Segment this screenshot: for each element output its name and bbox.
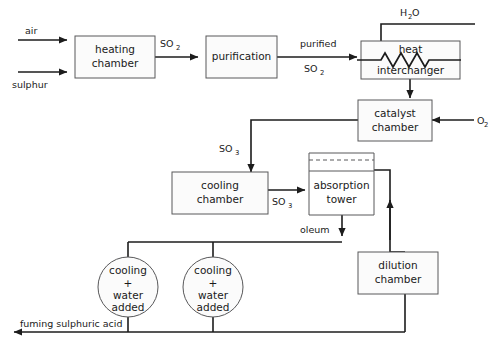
heat-interchanger-label-line1: heat (399, 43, 423, 55)
heating-chamber-label-line1: heating (95, 43, 135, 55)
label-so3-a-subscript: 3 (235, 149, 239, 157)
label-so3-b-main: SO (272, 196, 286, 207)
cooling-water-1-label-line3: water (113, 289, 144, 301)
label-so2-after-heating: SO 2 (160, 38, 180, 52)
label-oxygen: O 2 (477, 115, 488, 129)
purification-label: purification (212, 50, 272, 62)
process-flow-diagram: heating chamber purification heat interc… (0, 0, 493, 349)
label-so2-a-subscript: 2 (176, 44, 180, 52)
connector-dilution-to-tower (374, 170, 390, 252)
absorption-tower-label-line2: tower (327, 193, 358, 205)
label-water-main: H (400, 7, 407, 18)
label-so2-a-main: SO (160, 38, 174, 49)
label-so3-b-subscript: 3 (288, 202, 292, 210)
dilution-chamber-label-line2: chamber (375, 273, 422, 285)
label-so2-b-main: SO (304, 63, 318, 74)
heating-chamber-label-line2: chamber (92, 57, 139, 69)
label-so3-to-tower: SO 3 (272, 196, 292, 210)
label-so3-from-catalyst: SO 3 (219, 143, 239, 157)
label-oleum: oleum (300, 224, 330, 235)
diagram-canvas: heating chamber purification heat interc… (0, 0, 493, 349)
cooling-water-2-label-line1: cooling (194, 264, 232, 276)
catalyst-chamber-label-line1: catalyst (374, 107, 415, 119)
label-oxygen-subscript: 2 (484, 121, 488, 129)
connector-so3-to-cooling-chamber (251, 120, 358, 172)
cooling-water-1-label-line1: cooling (109, 264, 147, 276)
cooling-water-2-label-line4: added (197, 301, 230, 313)
connector-water-inlet (381, 24, 475, 41)
label-purified: purified (300, 38, 336, 49)
absorption-tower-label-line1: absorption (313, 179, 369, 191)
cooling-chamber-label-line1: cooling (201, 179, 239, 191)
label-fuming-sulphuric-acid: fuming sulphuric acid (20, 318, 123, 329)
label-sulphur: sulphur (12, 79, 48, 90)
label-air: air (25, 25, 37, 36)
dilution-chamber-label-line1: dilution (378, 259, 417, 271)
cooling-water-1-label-line4: added (112, 301, 145, 313)
cooling-water-1-label-line2: + (124, 277, 133, 289)
cooling-water-2-label-line3: water (198, 289, 229, 301)
label-so2-purified: SO 2 (304, 63, 324, 77)
label-so3-a-main: SO (219, 143, 233, 154)
label-so2-b-subscript: 2 (320, 69, 324, 77)
label-water: H 2 O (400, 7, 419, 21)
cooling-chamber-label-line2: chamber (197, 193, 244, 205)
cooling-water-2-label-line2: + (209, 277, 218, 289)
label-water-tail: O (412, 7, 419, 18)
heat-interchanger-label-line2: interchanger (377, 64, 445, 76)
catalyst-chamber-label-line2: chamber (372, 121, 419, 133)
